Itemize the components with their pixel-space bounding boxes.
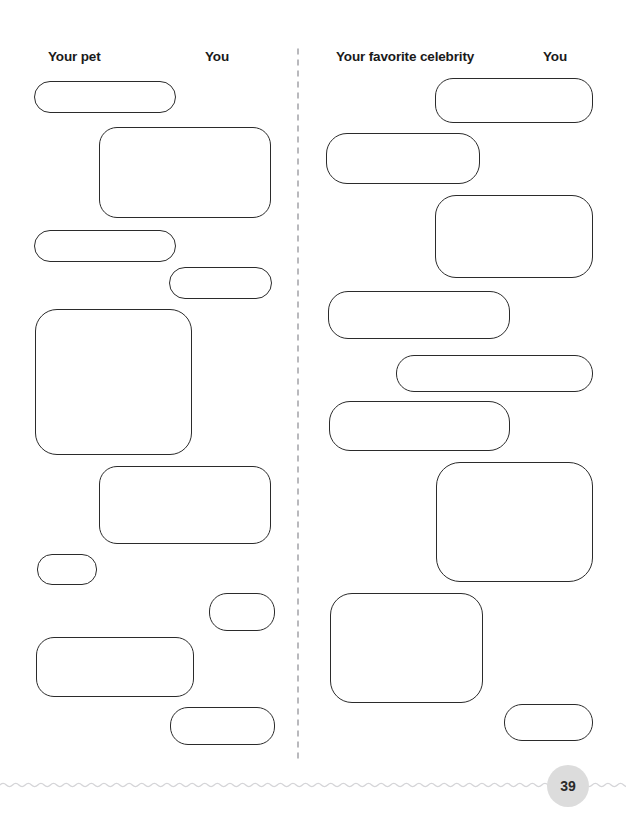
column-header-you-left: You — [205, 50, 229, 64]
wavy-rule-icon — [0, 772, 626, 798]
worksheet-page: Your pet You Your favorite celebrity You… — [0, 0, 626, 819]
speech-bubble-left-right-10[interactable] — [170, 707, 275, 745]
page-number-badge: 39 — [547, 765, 589, 807]
column-header-your-pet: Your pet — [48, 50, 101, 64]
speech-bubble-left-left-9[interactable] — [36, 637, 194, 697]
speech-bubble-left-left-5[interactable] — [35, 309, 192, 455]
column-header-your-favorite-celebrity: Your favorite celebrity — [336, 50, 474, 64]
speech-bubble-left-right-6[interactable] — [99, 466, 271, 544]
speech-bubble-left-right-8[interactable] — [209, 593, 275, 631]
speech-bubble-right-left-8[interactable] — [330, 593, 483, 703]
speech-bubble-right-right-5[interactable] — [396, 355, 593, 392]
speech-bubble-right-right-9[interactable] — [504, 704, 593, 741]
speech-bubble-right-left-6[interactable] — [329, 401, 510, 451]
speech-bubble-left-right-2[interactable] — [99, 127, 271, 218]
speech-bubble-left-right-4[interactable] — [169, 267, 272, 299]
speech-bubble-right-right-7[interactable] — [436, 462, 593, 582]
speech-bubble-right-left-2[interactable] — [326, 133, 480, 184]
speech-bubble-right-right-3[interactable] — [435, 195, 593, 278]
speech-bubble-left-left-1[interactable] — [34, 81, 176, 113]
page-number: 39 — [560, 779, 576, 793]
speech-bubble-left-left-3[interactable] — [34, 230, 176, 262]
speech-bubble-left-left-7[interactable] — [37, 554, 97, 585]
column-divider-dotted — [296, 46, 300, 760]
speech-bubble-right-left-4[interactable] — [328, 291, 510, 339]
speech-bubble-right-right-1[interactable] — [435, 78, 593, 123]
column-header-you-right: You — [543, 50, 567, 64]
